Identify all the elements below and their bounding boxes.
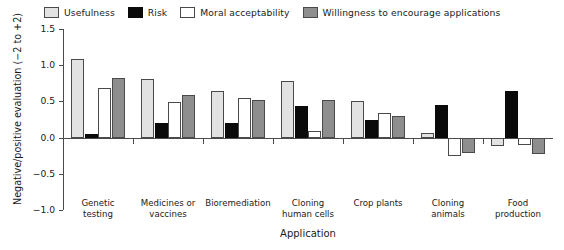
group-separator (133, 138, 134, 144)
bar-bioremediation-willingness-to-encourage-applications (252, 100, 265, 138)
x-axis-group-label-line: vaccines (128, 209, 208, 220)
bar-genetic-testing-moral-acceptability (98, 88, 111, 137)
group-separator (343, 138, 344, 144)
x-axis-group-label: Medicines orvaccines (128, 198, 208, 219)
x-axis-group-label-line: Food (478, 198, 558, 209)
bar-food-production-moral-acceptability (518, 138, 531, 145)
x-axis-group-label: Crop plants (338, 198, 418, 209)
bar-crop-plants-risk (365, 120, 378, 137)
bar-food-production-risk (505, 91, 518, 138)
bar-cloning-animals-willingness-to-encourage-applications (462, 138, 475, 153)
bar-medicines-or-vaccines-willingness-to-encourage-applications (182, 95, 195, 138)
y-axis-tick (59, 174, 63, 175)
y-axis-tick-label: 0.0 (21, 132, 55, 143)
y-axis-tick-label: −1.0 (21, 204, 55, 215)
bar-crop-plants-usefulness (351, 101, 364, 137)
zero-baseline (63, 138, 553, 139)
x-axis-group-label-line: Cloning (408, 198, 488, 209)
bar-cloning-human-cells-willingness-to-encourage-applications (322, 100, 335, 138)
x-axis-group-label-line: testing (58, 209, 138, 220)
y-axis-tick-label: 0.5 (21, 95, 55, 106)
x-axis-group-label-line: production (478, 209, 558, 220)
bar-crop-plants-willingness-to-encourage-applications (392, 116, 405, 138)
y-axis-tick (59, 29, 63, 30)
group-separator (273, 138, 274, 144)
bar-bioremediation-usefulness (211, 91, 224, 138)
bar-food-production-usefulness (491, 138, 504, 147)
bar-bioremediation-risk (225, 123, 238, 137)
bar-medicines-or-vaccines-usefulness (141, 79, 154, 138)
group-separator (483, 138, 484, 144)
bar-genetic-testing-willingness-to-encourage-applications (112, 78, 125, 138)
x-axis-group-label-line: Crop plants (338, 198, 418, 209)
x-axis-group-label-line: Genetic (58, 198, 138, 209)
y-axis-tick (59, 101, 63, 102)
x-axis-group-label: Cloninghuman cells (268, 198, 348, 219)
y-axis-tick (59, 65, 63, 66)
bar-crop-plants-moral-acceptability (378, 113, 391, 138)
bar-chart: Usefulness Risk Moral acceptability Will… (0, 0, 564, 250)
bar-cloning-animals-usefulness (421, 133, 434, 137)
x-axis-group-label: Cloninganimals (408, 198, 488, 219)
bar-medicines-or-vaccines-risk (155, 123, 168, 137)
x-axis-title: Application (248, 228, 368, 239)
x-axis-group-label: Foodproduction (478, 198, 558, 219)
x-axis-group-label-line: animals (408, 209, 488, 220)
x-axis-group-label-line: Cloning (268, 198, 348, 209)
y-axis-line (63, 29, 64, 210)
bar-cloning-human-cells-risk (295, 106, 308, 138)
x-axis-group-label: Bioremediation (198, 198, 278, 209)
x-axis-group-label-line: human cells (268, 209, 348, 220)
group-separator (413, 138, 414, 144)
bar-cloning-human-cells-usefulness (281, 81, 294, 137)
plot-area: 1.51.00.50.0−0.5−1.0GenetictestingMedici… (0, 0, 564, 250)
bar-food-production-willingness-to-encourage-applications (532, 138, 545, 154)
bar-cloning-human-cells-moral-acceptability (308, 131, 321, 138)
bar-genetic-testing-risk (85, 134, 98, 138)
y-axis-tick-label: 1.0 (21, 59, 55, 70)
y-axis-tick-label: −0.5 (21, 168, 55, 179)
bar-genetic-testing-usefulness (71, 59, 84, 137)
y-axis-tick-label: 1.5 (21, 23, 55, 34)
bar-cloning-animals-risk (435, 105, 448, 138)
bar-cloning-animals-moral-acceptability (448, 138, 461, 157)
y-axis-title: Negative/positive evaluation (−2 to +2) (12, 13, 23, 205)
x-axis-group-label-line: Bioremediation (198, 198, 278, 209)
x-axis-group-label-line: Medicines or (128, 198, 208, 209)
x-axis-group-label: Genetictesting (58, 198, 138, 219)
bar-medicines-or-vaccines-moral-acceptability (168, 102, 181, 137)
bar-bioremediation-moral-acceptability (238, 98, 251, 138)
group-separator (203, 138, 204, 144)
